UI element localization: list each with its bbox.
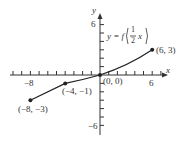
point-label-6-3: (6, 3): [156, 45, 176, 55]
y-tick-label-neg6: −6: [88, 121, 98, 131]
y-axis-arrow-icon: [98, 13, 103, 19]
y-tick-label-6: 6: [91, 19, 96, 29]
x-tick-label-6: 6: [149, 78, 154, 88]
paren-left: [127, 28, 129, 44]
fraction-numerator: 1: [131, 25, 135, 34]
point-label-neg4-neg1: (−4, −1): [62, 86, 92, 96]
point-label-origin: (0, 0): [103, 76, 123, 86]
x-tick-label-neg8: −8: [24, 78, 34, 88]
x-axis-label: x: [166, 65, 170, 75]
paren-right: [146, 28, 148, 44]
fraction-denominator: 2: [131, 36, 135, 45]
point-label-neg8-neg3: (−8, −3): [18, 104, 48, 114]
x-ticks: [13, 71, 161, 75]
y-axis-label: y: [92, 5, 96, 15]
function-variable: x: [138, 31, 142, 41]
function-label: y = f: [107, 31, 124, 41]
